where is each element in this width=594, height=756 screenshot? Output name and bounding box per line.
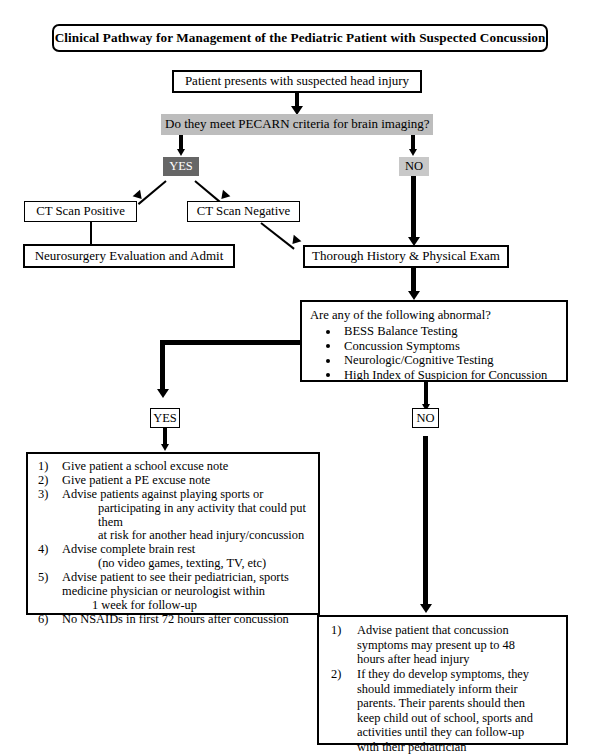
page-title: Clinical Pathway for Management of the P… — [55, 30, 546, 45]
bullet-icon — [326, 359, 330, 363]
connector-no-to-history — [411, 176, 416, 238]
no-mid-box: NO — [412, 408, 439, 428]
no-branch-followup-box: 1) Advise patient that concussion sympto… — [317, 615, 568, 745]
ct-scan-positive-box: CT Scan Positive — [24, 201, 137, 222]
history-exam-label: Thorough History & Physical Exam — [312, 249, 500, 264]
neurosurgery-label: Neurosurgery Evaluation and Admit — [35, 249, 224, 264]
list-item: 6) No NSAIDs in first 72 hours after con… — [36, 613, 312, 627]
list-item: Concussion Symptoms — [310, 339, 560, 353]
connector-abnormal-bottom-vertical — [424, 382, 428, 405]
list-item: 5) Advise patient to see their pediatric… — [36, 571, 312, 613]
connector-history-to-abnormal — [411, 268, 416, 292]
list-item: Neurologic/Cognitive Testing — [310, 353, 560, 367]
bullet-icon — [326, 344, 330, 348]
yes-branch-instructions-box: 1) Give patient a school excuse note 2) … — [26, 452, 320, 615]
item-line: 1 week for follow-up — [62, 599, 312, 613]
item-line: Advise complete brain rest — [62, 543, 312, 557]
item-marker: 1) — [331, 623, 341, 638]
connector-abnormal-left-horizontal — [160, 340, 302, 345]
abnormal-checklist-box: Are any of the following abnormal? BESS … — [300, 300, 568, 382]
list-item: 2) If they do develop symptoms, they sho… — [327, 667, 560, 755]
abnormal-item-label: High Index of Suspicion for Concussion — [344, 368, 547, 382]
item-marker: 6) — [38, 613, 48, 627]
item-marker: 3) — [38, 488, 48, 502]
decision-pecarn-label: Do they meet PECARN criteria for brain i… — [165, 117, 430, 132]
no-mid-label: NO — [416, 411, 434, 425]
item-line: (no video games, texting, TV, etc) — [62, 557, 312, 571]
item-line: If they do develop symptoms, they — [357, 667, 560, 682]
item-line: Advise patient to see their pediatrician… — [62, 571, 312, 585]
item-line: symptoms may present up to 48 — [357, 638, 560, 653]
pathway-title-box: Clinical Pathway for Management of the P… — [52, 24, 548, 52]
list-item: 1) Advise patient that concussion sympto… — [327, 623, 560, 667]
list-item: High Index of Suspicion for Concussion — [310, 368, 560, 382]
arrowhead-decision-to-yes — [177, 149, 185, 156]
item-marker: 2) — [38, 474, 48, 488]
item-line: Advise patient that concussion — [357, 623, 560, 638]
start-label: Patient presents with suspected head inj… — [185, 74, 409, 89]
neurosurgery-box: Neurosurgery Evaluation and Admit — [23, 244, 235, 268]
abnormal-item-list: BESS Balance Testing Concussion Symptoms… — [310, 324, 560, 382]
yes-top-box: YES — [163, 157, 199, 176]
connector-start-to-decision — [295, 93, 299, 107]
item-line: participating in any activity that could… — [62, 502, 312, 530]
list-item: BESS Balance Testing — [310, 324, 560, 338]
item-line: Give patient a PE excuse note — [62, 474, 312, 488]
history-exam-box: Thorough History & Physical Exam — [303, 245, 509, 268]
flowchart-page: Clinical Pathway for Management of the P… — [0, 0, 594, 756]
connector-abnormal-left-vertical — [160, 340, 165, 390]
connector-decision-to-no — [411, 135, 415, 150]
arrowhead-history-to-abnormal — [408, 291, 420, 300]
yes-branch-list: 1) Give patient a school excuse note 2) … — [36, 460, 312, 627]
item-line: keep child out of school, sports and — [357, 711, 560, 726]
connector-yes-mid-to-instructions — [163, 428, 167, 445]
connector-decision-to-yes — [179, 135, 183, 150]
yes-mid-box: YES — [150, 408, 180, 428]
bullet-icon — [326, 330, 330, 334]
list-item: 1) Give patient a school excuse note — [36, 460, 312, 474]
item-line: hours after head injury — [357, 652, 560, 667]
no-top-box: NO — [399, 157, 429, 176]
abnormal-question: Are any of the following abnormal? — [310, 308, 560, 322]
abnormal-item-label: Neurologic/Cognitive Testing — [344, 353, 494, 367]
connector-no-mid-to-followup — [423, 436, 428, 605]
item-line: Give patient a school excuse note — [62, 460, 312, 474]
list-item: 4) Advise complete brain rest (no video … — [36, 543, 312, 571]
item-line: Advise patients against playing sports o… — [62, 488, 312, 502]
ct-scan-negative-label: CT Scan Negative — [197, 204, 291, 219]
yes-mid-label: YES — [153, 411, 177, 425]
item-line: should immediately inform their — [357, 682, 560, 697]
abnormal-item-label: BESS Balance Testing — [344, 324, 458, 338]
item-marker: 5) — [38, 571, 48, 585]
ct-scan-negative-box: CT Scan Negative — [187, 201, 300, 222]
yes-top-label: YES — [169, 159, 193, 173]
item-line: with their pediatrician — [357, 740, 560, 755]
arrowhead-no-mid-to-followup — [420, 604, 432, 613]
item-marker: 2) — [331, 667, 341, 682]
list-item: 2) Give patient a PE excuse note — [36, 474, 312, 488]
bullet-icon — [326, 373, 330, 377]
item-line: activities until they can follow-up — [357, 725, 560, 740]
decision-pecarn-box: Do they meet PECARN criteria for brain i… — [161, 114, 433, 135]
item-marker: 4) — [38, 543, 48, 557]
item-line: No NSAIDs in first 72 hours after concus… — [62, 613, 312, 627]
connector-ct-positive-to-neurosurgery — [90, 222, 92, 244]
item-line: at risk for another head injury/concussi… — [62, 529, 312, 543]
arrowhead-decision-to-no — [409, 149, 417, 156]
item-line: medicine physician or neurologist within — [62, 585, 312, 599]
arrowhead-yes-mid-to-instructions — [161, 444, 169, 451]
item-marker: 1) — [38, 460, 48, 474]
abnormal-item-label: Concussion Symptoms — [344, 339, 460, 353]
arrowhead-abnormal-to-yes — [157, 389, 169, 398]
no-branch-list: 1) Advise patient that concussion sympto… — [327, 623, 560, 755]
item-line: parents. Their parents should then — [357, 696, 560, 711]
list-item: 3) Advise patients against playing sport… — [36, 488, 312, 544]
start-box: Patient presents with suspected head inj… — [172, 70, 422, 93]
ct-scan-positive-label: CT Scan Positive — [36, 204, 125, 219]
connector-ct-negative-to-history — [260, 222, 294, 249]
no-top-label: NO — [405, 159, 423, 173]
